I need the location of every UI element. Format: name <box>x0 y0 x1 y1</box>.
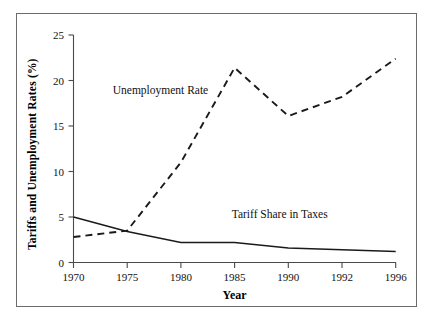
y-axis-tick-labels: 25 20 15 10 5 0 <box>53 29 65 269</box>
y-tick-label: 20 <box>53 75 65 87</box>
figure-container: Tariffs and Unemployment Rates (%) 25 20… <box>0 0 434 322</box>
series-line-tariff-share <box>74 217 396 252</box>
x-tick-label: 1980 <box>170 271 193 283</box>
x-tick-label: 1970 <box>63 271 86 283</box>
x-axis-ticks <box>74 263 396 269</box>
y-tick-label: 5 <box>59 211 65 223</box>
x-tick-label: 1985 <box>224 271 247 283</box>
y-axis-title: Tariffs and Unemployment Rates (%) <box>26 58 39 250</box>
x-tick-label: 1992 <box>331 271 353 283</box>
annotation-tariff-share: Tariff Share in Taxes <box>232 208 329 220</box>
chart-canvas: Tariffs and Unemployment Rates (%) 25 20… <box>0 0 434 322</box>
y-tick-label: 10 <box>53 166 65 178</box>
y-tick-label: 0 <box>59 257 65 269</box>
y-tick-label: 25 <box>53 29 65 41</box>
x-axis-title: Year <box>223 288 248 302</box>
y-axis-ticks <box>69 35 74 263</box>
x-tick-label: 1975 <box>116 271 139 283</box>
annotation-unemployment-rate: Unemployment Rate <box>113 84 209 97</box>
x-tick-label: 1990 <box>277 271 300 283</box>
y-tick-label: 15 <box>53 120 65 132</box>
x-axis-tick-labels: 1970 1975 1980 1985 1990 1992 1996 <box>63 271 408 283</box>
x-tick-label: 1996 <box>385 271 408 283</box>
